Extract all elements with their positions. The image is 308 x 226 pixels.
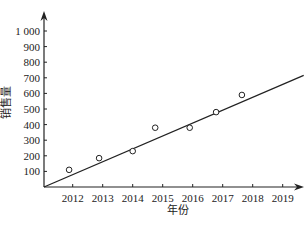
x-tick-label: 2014 xyxy=(122,192,145,204)
y-tick-label: 500 xyxy=(24,103,41,115)
x-tick-label: 2019 xyxy=(272,192,295,204)
data-points xyxy=(66,92,244,172)
x-axis xyxy=(44,184,304,191)
data-point xyxy=(66,167,72,173)
y-tick-label: 200 xyxy=(24,150,41,162)
data-point xyxy=(187,125,193,131)
y-ticks: 1002003004005006007008009001 000 xyxy=(15,25,47,177)
x-tick-label: 2017 xyxy=(212,192,235,204)
scatter-chart: 1002003004005006007008009001 000 2012201… xyxy=(0,0,308,226)
y-tick-label: 600 xyxy=(24,87,41,99)
x-tick-label: 2012 xyxy=(62,192,84,204)
data-point xyxy=(213,109,219,115)
y-tick-label: 700 xyxy=(24,72,41,84)
data-point xyxy=(239,92,245,98)
y-tick-label: 300 xyxy=(24,134,41,146)
x-tick-label: 2018 xyxy=(242,192,265,204)
data-point xyxy=(130,148,136,154)
regression-line xyxy=(44,75,304,187)
data-point xyxy=(96,155,102,161)
x-tick-label: 2013 xyxy=(92,192,115,204)
y-tick-label: 1 000 xyxy=(15,25,40,37)
trend-line xyxy=(44,75,304,187)
x-tick-label: 2016 xyxy=(182,192,205,204)
y-tick-label: 400 xyxy=(24,119,41,131)
y-tick-label: 900 xyxy=(24,41,41,53)
data-point xyxy=(152,125,158,131)
y-axis xyxy=(41,11,48,187)
x-axis-title: 年份 xyxy=(167,203,189,217)
y-tick-label: 800 xyxy=(24,56,41,68)
y-axis-title: 销售量 xyxy=(0,86,13,119)
x-tick-label: 2015 xyxy=(152,192,175,204)
y-tick-label: 100 xyxy=(24,165,41,177)
